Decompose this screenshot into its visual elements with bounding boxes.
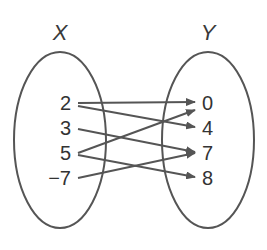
domain-value: 3 bbox=[60, 117, 71, 139]
domain-value: −7 bbox=[48, 167, 71, 189]
range-ellipse bbox=[162, 52, 254, 228]
mapping-arrows bbox=[78, 102, 195, 178]
range-value: 7 bbox=[202, 142, 213, 164]
domain-ellipse bbox=[14, 52, 106, 228]
domain-value: 2 bbox=[60, 92, 71, 114]
range-value: 0 bbox=[202, 92, 213, 114]
mapping-diagram: X Y 2 3 5 −7 0 4 7 8 bbox=[0, 0, 267, 250]
range-value: 4 bbox=[202, 117, 213, 139]
domain-value: 5 bbox=[60, 142, 71, 164]
arrow-2-to-0 bbox=[78, 102, 195, 103]
range-value: 8 bbox=[202, 167, 213, 189]
range-label: Y bbox=[201, 20, 217, 45]
domain-label: X bbox=[52, 20, 69, 45]
